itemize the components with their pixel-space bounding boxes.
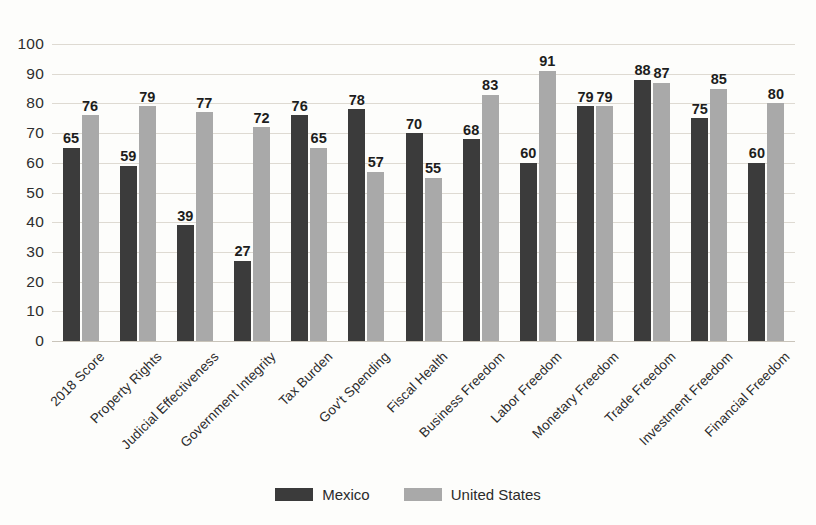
legend-swatch	[275, 488, 313, 501]
bar[interactable]: 77	[196, 112, 213, 341]
bar[interactable]: 83	[482, 95, 499, 342]
bar-value-label: 39	[177, 209, 193, 224]
bar[interactable]: 72	[253, 127, 270, 341]
bar[interactable]: 70	[406, 133, 423, 341]
bar-group: 5979	[120, 44, 156, 341]
bar[interactable]: 60	[748, 163, 765, 341]
bar-group: 7055	[406, 44, 442, 341]
bar-value-label: 85	[711, 72, 727, 87]
x-axis-tick-label: Financial Freedom	[662, 349, 793, 480]
y-axis-tick-label: 40	[26, 213, 44, 231]
bar-value-label: 80	[768, 87, 784, 102]
y-axis-tick-label: 20	[26, 273, 44, 291]
x-axis: 2018 ScoreProperty RightsJudicial Effect…	[52, 341, 795, 471]
bar[interactable]: 59	[120, 166, 137, 341]
bar-value-label: 79	[139, 90, 155, 105]
bar-value-label: 60	[749, 146, 765, 161]
legend-swatch	[404, 488, 442, 501]
bar-value-label: 79	[577, 90, 593, 105]
bar-group: 6080	[748, 44, 784, 341]
bar[interactable]: 68	[463, 139, 480, 341]
bar-group: 7979	[577, 44, 613, 341]
bar[interactable]: 79	[139, 106, 156, 341]
y-axis-tick-label: 50	[26, 184, 44, 202]
bar[interactable]: 39	[177, 225, 194, 341]
bar-value-label: 70	[406, 117, 422, 132]
bar-group: 6883	[463, 44, 499, 341]
bar[interactable]: 76	[82, 115, 99, 341]
bar-group: 7585	[691, 44, 727, 341]
bar-group: 7857	[348, 44, 384, 341]
bar-group: 3977	[177, 44, 213, 341]
bar[interactable]: 80	[767, 103, 784, 341]
legend-label: Mexico	[322, 486, 370, 503]
bar-value-label: 72	[253, 111, 269, 126]
legend-item[interactable]: United States	[404, 486, 541, 503]
bar[interactable]: 79	[596, 106, 613, 341]
bar-value-label: 75	[692, 102, 708, 117]
bar[interactable]: 75	[691, 118, 708, 341]
bar[interactable]: 65	[310, 148, 327, 341]
bar-value-label: 76	[82, 99, 98, 114]
y-axis-tick-label: 60	[26, 154, 44, 172]
bar-value-label: 57	[368, 155, 384, 170]
bar[interactable]: 57	[367, 172, 384, 341]
bar-value-label: 88	[635, 63, 651, 78]
bar[interactable]: 27	[234, 261, 251, 341]
bar-value-label: 83	[482, 78, 498, 93]
bar-chart: 1009080706050403020100 65765979397727727…	[0, 0, 816, 525]
bar-value-label: 79	[596, 90, 612, 105]
bar-group: 7665	[291, 44, 327, 341]
bar-group: 6576	[63, 44, 99, 341]
bar[interactable]: 76	[291, 115, 308, 341]
legend-item[interactable]: Mexico	[275, 486, 370, 503]
y-axis-tick-label: 0	[35, 332, 44, 350]
bar[interactable]: 85	[710, 89, 727, 341]
y-axis-tick-label: 90	[26, 65, 44, 83]
bar-value-label: 55	[425, 161, 441, 176]
bar-group: 8887	[634, 44, 670, 341]
bar-value-label: 59	[120, 149, 136, 164]
bar-value-label: 27	[234, 244, 250, 259]
y-axis-tick-label: 70	[26, 124, 44, 142]
bar-value-label: 60	[520, 146, 536, 161]
bar-value-label: 65	[63, 131, 79, 146]
bar[interactable]: 79	[577, 106, 594, 341]
bar-value-label: 91	[539, 54, 555, 69]
bars-layer: 6576597939772772766578577055688360917979…	[52, 44, 795, 341]
y-axis: 1009080706050403020100	[0, 44, 44, 341]
chart-legend: MexicoUnited States	[0, 486, 816, 503]
bar-value-label: 77	[196, 96, 212, 111]
y-axis-tick-label: 100	[18, 35, 44, 53]
bar[interactable]: 78	[348, 109, 365, 341]
legend-label: United States	[451, 486, 541, 503]
bar-value-label: 78	[349, 93, 365, 108]
y-axis-tick-label: 10	[26, 302, 44, 320]
bar[interactable]: 87	[653, 83, 670, 341]
bar-value-label: 68	[463, 123, 479, 138]
bar-value-label: 76	[292, 99, 308, 114]
bar-group: 6091	[520, 44, 556, 341]
y-axis-tick-label: 80	[26, 94, 44, 112]
bar-value-label: 65	[311, 131, 327, 146]
bar[interactable]: 65	[63, 148, 80, 341]
y-axis-tick-label: 30	[26, 243, 44, 261]
bar[interactable]: 60	[520, 163, 537, 341]
bar[interactable]: 91	[539, 71, 556, 341]
bar[interactable]: 88	[634, 80, 651, 341]
bar-group: 2772	[234, 44, 270, 341]
bar[interactable]: 55	[425, 178, 442, 341]
bar-value-label: 87	[654, 66, 670, 81]
